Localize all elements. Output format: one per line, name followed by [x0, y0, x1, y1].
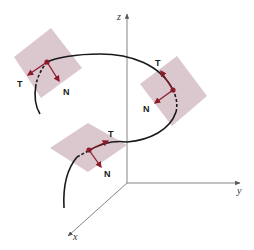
space-curve-diagram: z y x T N T N [0, 0, 254, 250]
z-axis-label: z [116, 11, 121, 22]
curve-point [44, 59, 49, 64]
tangent-label: T [17, 79, 23, 89]
x-axis [68, 183, 127, 236]
y-axis-label: y [236, 185, 242, 196]
tangent-label: T [155, 58, 161, 68]
normal-label: N [63, 87, 70, 97]
curve-point [86, 147, 91, 152]
osculating-planes [14, 28, 207, 172]
normal-label: N [143, 104, 150, 114]
normal-label: N [104, 169, 111, 179]
tangent-label: T [108, 129, 114, 139]
curve-point [170, 87, 175, 92]
x-axis-label: x [72, 231, 78, 242]
